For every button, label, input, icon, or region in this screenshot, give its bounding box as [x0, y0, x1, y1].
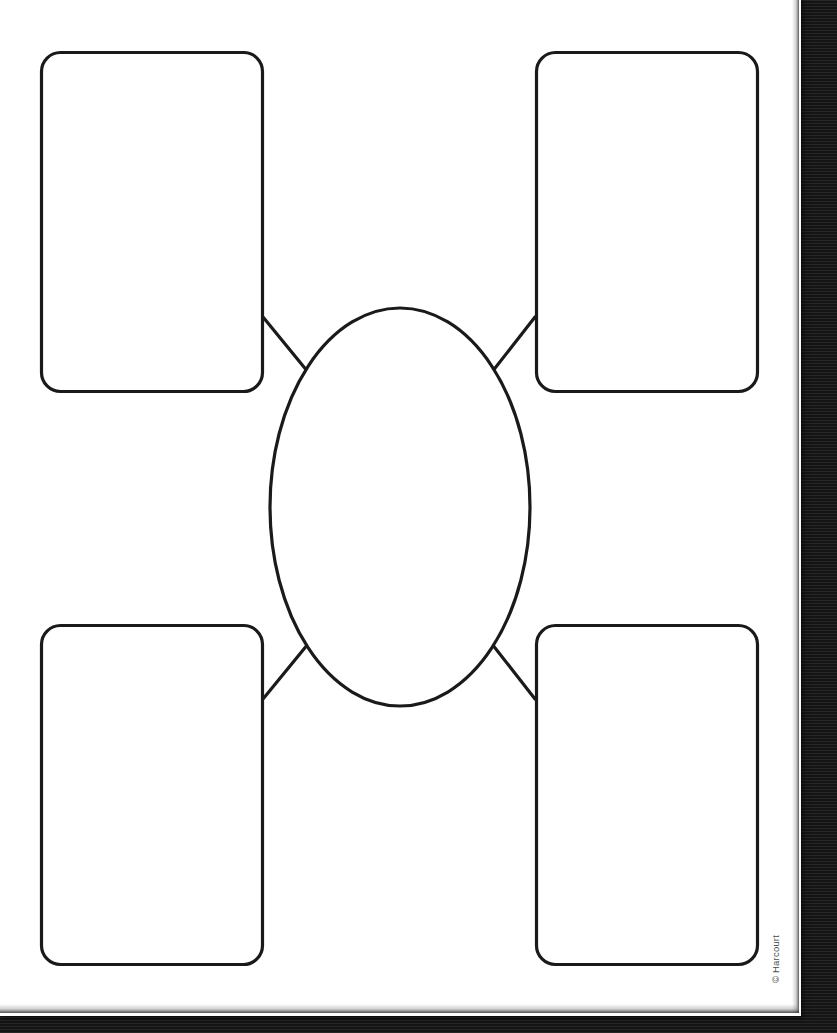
- connector-bottom-right: [492, 644, 535, 699]
- box-top-left[interactable]: [42, 53, 263, 392]
- scanned-page-canvas: © Harcourt: [0, 0, 837, 1033]
- box-top-right[interactable]: [537, 53, 758, 392]
- worksheet-paper: © Harcourt: [0, 0, 801, 1016]
- connector-bottom-left: [263, 644, 308, 699]
- copyright-notice: © Harcourt: [758, 807, 769, 897]
- center-oval[interactable]: [270, 308, 530, 706]
- copyright-text: © Harcourt: [770, 893, 781, 983]
- connector-top-left: [263, 317, 308, 372]
- scanner-background-right-band: [795, 0, 837, 1033]
- box-bottom-left[interactable]: [42, 626, 263, 965]
- connector-top-right: [492, 317, 535, 372]
- graphic-organizer-diagram: [0, 0, 801, 1016]
- box-bottom-right[interactable]: [537, 626, 758, 965]
